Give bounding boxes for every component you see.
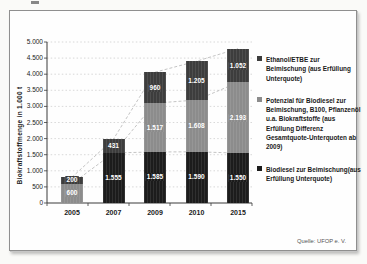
bar-segment: 1.555 xyxy=(103,153,125,203)
y-tick-label: 2.500 xyxy=(13,119,43,126)
legend-swatch-icon xyxy=(257,56,262,61)
bar-segment: 960 xyxy=(144,72,166,103)
bar-value-label: 1.555 xyxy=(103,174,123,182)
y-tick-label: 0 xyxy=(13,199,43,206)
bar-value-label: 200 xyxy=(65,176,80,184)
source-note: Quelle: UFOP e. V. xyxy=(297,238,346,244)
scan-artifact xyxy=(31,1,39,4)
bar-value-label: 960 xyxy=(148,84,163,92)
x-axis-label: 2005 xyxy=(52,209,92,216)
legend-item-label: Biodiesel zur Beimischung(aus Erfüllung … xyxy=(266,165,361,184)
bar-segment: 200 xyxy=(61,177,83,183)
legend-swatch-icon xyxy=(257,97,262,102)
bar-value-label: 431 xyxy=(106,142,121,150)
bar-segment: 600 xyxy=(61,184,83,203)
legend-item-label: Potenzial für Biodiesel zur Beimischung,… xyxy=(266,96,361,152)
bar-value-label: 1.517 xyxy=(145,124,165,132)
y-tick-label: 3.500 xyxy=(13,86,43,93)
x-axis-label: 2010 xyxy=(177,209,217,216)
x-axis-label: 2015 xyxy=(218,209,258,216)
legend-item: Ethanol/ETBE zur Beimischung (aus Erfüll… xyxy=(257,55,361,83)
y-tick-label: 1.000 xyxy=(13,167,43,174)
legend-item: Biodiesel zur Beimischung(aus Erfüllung … xyxy=(257,165,361,184)
bar-value-label: 1.550 xyxy=(228,174,248,182)
y-tick-label: 4.500 xyxy=(13,54,43,61)
bar-value-label: 2.193 xyxy=(228,114,248,122)
bar-value-label: 1.052 xyxy=(228,62,248,70)
bar-segment: 1.205 xyxy=(186,61,208,100)
bar-segment: 1.550 xyxy=(227,153,249,203)
y-tick-label: 3.000 xyxy=(13,102,43,109)
bar-segment: 2.193 xyxy=(227,82,249,153)
x-axis-label: 2007 xyxy=(94,209,134,216)
y-tick-label: 4.000 xyxy=(13,70,43,77)
bar-value-label: 1.590 xyxy=(186,173,206,181)
plot-area: 05001.0001.5002.0002.5003.0003.5004.0004… xyxy=(47,42,252,203)
bar-segment: 1.517 xyxy=(144,103,166,152)
bar-segment: 431 xyxy=(103,139,125,153)
bar-value-label: 1.205 xyxy=(186,77,206,85)
y-tick-label: 1.500 xyxy=(13,151,43,158)
y-tick-label: 2.000 xyxy=(13,135,43,142)
legend-swatch-icon xyxy=(257,166,262,171)
y-tick-label: 5.000 xyxy=(13,38,43,45)
legend-item-label: Ethanol/ETBE zur Beimischung (aus Erfüll… xyxy=(266,55,361,83)
y-tick-label: 500 xyxy=(13,183,43,190)
figure-page: Biokraftstoffmenge in 1.000 t 05001.0001… xyxy=(0,0,367,264)
bar-value-label: 1.585 xyxy=(145,173,165,181)
legend-item: Potenzial für Biodiesel zur Beimischung,… xyxy=(257,96,361,152)
x-axis-label: 2009 xyxy=(135,209,175,216)
bar-segment: 1.052 xyxy=(227,49,249,83)
bar-segment: 1.585 xyxy=(144,152,166,203)
bar-value-label: 1.608 xyxy=(186,122,206,130)
bar-value-label: 600 xyxy=(65,189,80,197)
bar-segment: 1.590 xyxy=(186,152,208,203)
bar-segment: 1.608 xyxy=(186,100,208,152)
chart-frame: Biokraftstoffmenge in 1.000 t 05001.0001… xyxy=(9,10,357,251)
legend: Ethanol/ETBE zur Beimischung (aus Erfüll… xyxy=(257,55,361,183)
